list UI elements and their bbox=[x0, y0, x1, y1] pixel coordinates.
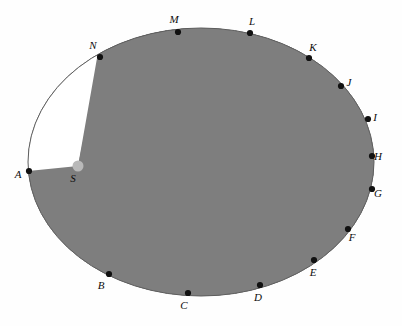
vertex-dot-i bbox=[365, 116, 371, 122]
vertex-dot-m bbox=[175, 29, 181, 35]
vertex-dot-a bbox=[26, 168, 32, 174]
vertex-dot-d bbox=[257, 282, 263, 288]
vertex-dot-n bbox=[97, 54, 103, 60]
geometry-figure: ABCDEFGHIJKLMN S bbox=[0, 0, 402, 326]
vertex-label-c: C bbox=[180, 299, 188, 311]
vertex-label-e: E bbox=[309, 266, 317, 278]
sector-diagram-svg: ABCDEFGHIJKLMN S bbox=[0, 0, 402, 326]
vertex-label-a: A bbox=[14, 168, 22, 180]
vertex-label-i: I bbox=[372, 111, 378, 123]
vertex-label-k: K bbox=[308, 41, 317, 53]
vertex-dot-e bbox=[311, 257, 317, 263]
vertex-dot-l bbox=[247, 30, 253, 36]
vertex-label-b: B bbox=[98, 279, 105, 291]
vertex-label-d: D bbox=[253, 291, 262, 303]
vertex-dot-j bbox=[338, 83, 344, 89]
center-vertex-dot bbox=[73, 161, 84, 172]
vertex-label-l: L bbox=[248, 15, 255, 27]
vertex-label-m: M bbox=[168, 13, 179, 25]
vertex-label-g: G bbox=[374, 187, 382, 199]
vertex-label-n: N bbox=[88, 39, 97, 51]
center-vertex-label: S bbox=[70, 172, 76, 184]
vertex-label-h: H bbox=[373, 150, 383, 162]
vertex-label-j: J bbox=[347, 76, 353, 88]
vertex-dot-b bbox=[106, 271, 112, 277]
vertex-dot-k bbox=[306, 55, 312, 61]
vertex-dot-c bbox=[185, 290, 191, 296]
vertex-label-f: F bbox=[348, 231, 356, 243]
